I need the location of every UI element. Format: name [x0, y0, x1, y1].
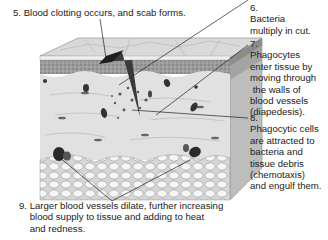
label-9-line: and redness.	[19, 223, 85, 234]
label-6-line: 6.	[250, 2, 258, 13]
label-8-line: tissue debris	[250, 158, 304, 169]
subcutaneous-fat-layer	[40, 154, 230, 200]
label-7-line: enter tissue by	[250, 61, 312, 72]
label-step-8: 8. Phagocytic cells are attracted to bac…	[250, 112, 321, 192]
label-6-line: multiply in cut.	[250, 25, 311, 36]
label-8-line: 8.	[250, 112, 258, 123]
label-8-line: are attracted to	[250, 135, 315, 146]
label-8-line: (chemotaxis)	[250, 169, 305, 180]
label-step-6: 6. Bacteria multiply in cut.	[250, 2, 311, 36]
label-8-line: and engulf them.	[250, 180, 321, 191]
label-9-line: 9. Larger blood vessels dilate, further …	[19, 200, 223, 211]
skin-top-surface	[40, 38, 262, 58]
label-7-line: Phagocytes	[250, 49, 300, 60]
label-8-line: Phagocytic cells	[250, 123, 319, 134]
label-7-line: moving through	[250, 72, 316, 83]
label-7-line: the walls of	[250, 84, 301, 95]
label-6-line: Bacteria	[250, 13, 285, 24]
label-9-line: blood supply to tissue and adding to hea…	[19, 211, 204, 222]
label-step-7: 7. Phagocytes enter tissue by moving thr…	[250, 38, 316, 118]
label-8-line: bacteria and	[250, 146, 303, 157]
label-step-9: 9. Larger blood vessels dilate, further …	[19, 200, 223, 234]
label-7-line: 7.	[250, 38, 258, 49]
label-7-line: blood vessels	[250, 95, 308, 106]
label-step-5: 5. Blood clotting occurs, and scab forms…	[13, 7, 186, 18]
